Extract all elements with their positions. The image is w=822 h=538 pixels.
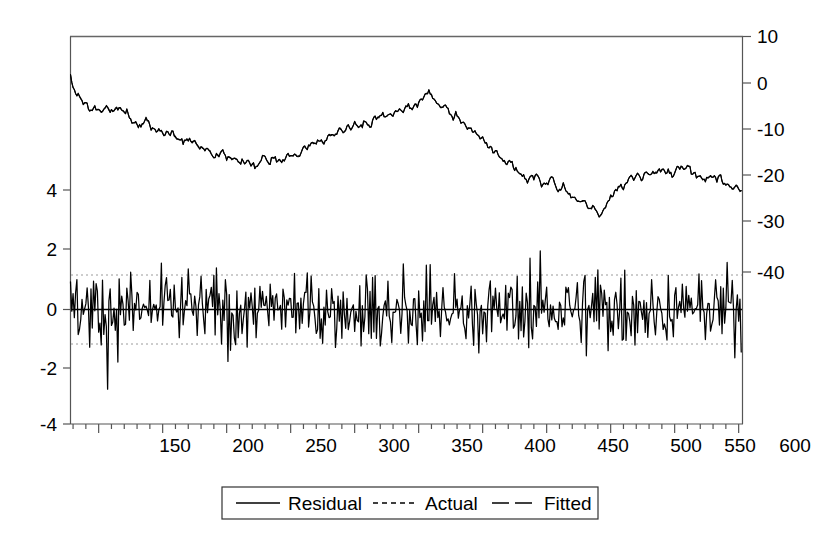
right-tick-label-minus10: -10: [757, 119, 784, 140]
left-tick-label-minus4: -4: [40, 414, 57, 435]
right-tick-label-minus40: -40: [757, 262, 784, 283]
chart-legend: Residual Actual Fitted: [222, 487, 598, 519]
chart-canvas: 4 2 0 -2 -4 10 0 -10 -20 -30 -40: [0, 0, 822, 538]
bottom-tick-label-250: 250: [305, 435, 337, 456]
left-tick-label-4: 4: [46, 180, 57, 201]
bottom-tick-label-300: 300: [378, 435, 410, 456]
bottom-tick-label-350: 350: [451, 435, 483, 456]
right-tick-label-10: 10: [757, 26, 778, 47]
left-tick-label-minus2: -2: [40, 358, 57, 379]
chart-background: [0, 0, 822, 538]
left-tick-label-2: 2: [46, 239, 57, 260]
bottom-tick-label-400: 400: [524, 435, 556, 456]
bottom-tick-label-450: 450: [597, 435, 629, 456]
legend-label-actual: Actual: [425, 493, 478, 514]
legend-label-fitted: Fitted: [544, 493, 592, 514]
right-tick-label-minus20: -20: [757, 165, 784, 186]
bottom-tick-label-150: 150: [159, 435, 191, 456]
residual-plot-chart: 4 2 0 -2 -4 10 0 -10 -20 -30 -40: [0, 0, 822, 538]
bottom-tick-label-600: 600: [779, 435, 811, 456]
bottom-tick-label-200: 200: [232, 435, 264, 456]
bottom-tick-label-500: 500: [670, 435, 702, 456]
right-tick-label-minus30: -30: [757, 211, 784, 232]
left-tick-label-0: 0: [46, 299, 57, 320]
legend-label-residual: Residual: [288, 493, 362, 514]
right-tick-label-0: 0: [757, 73, 768, 94]
bottom-tick-label-550: 550: [724, 435, 756, 456]
